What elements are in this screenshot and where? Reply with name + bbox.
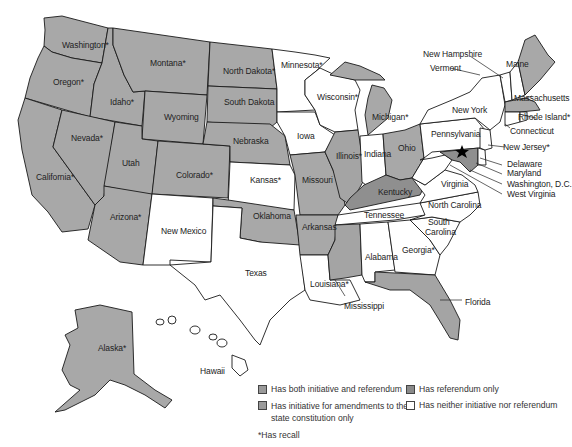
label-pennsylvania: Pennsylvania — [431, 130, 480, 139]
label-new-mexico: New Mexico — [161, 227, 206, 236]
legend-swatch-referendum-only — [406, 385, 415, 394]
label-florida: Florida — [465, 298, 490, 307]
label-indiana: Indiana — [364, 150, 391, 159]
state-alaska — [55, 305, 172, 412]
label-new-jersey: New Jersey* — [503, 143, 550, 152]
label-colorado: Colorado* — [176, 171, 213, 180]
label-illinois: Illinois* — [336, 152, 362, 161]
legend-note-text: *Has recall — [258, 430, 300, 440]
label-michigan: Michigan* — [372, 113, 408, 122]
legend-item-amendments-only: Has initiative for amendments to the sta… — [258, 400, 408, 424]
label-arkansas: Arkansas — [302, 223, 337, 232]
label-idaho: Idaho* — [110, 98, 134, 107]
label-north-carolina: North Carolina — [428, 201, 481, 210]
label-north-dakota: North Dakota* — [223, 67, 275, 76]
label-oklahoma: Oklahoma — [253, 212, 291, 221]
label-oregon: Oregon* — [53, 78, 84, 87]
label-south-dakota: South Dakota — [224, 98, 274, 107]
legend-label-amendments-line2: state constitution only — [271, 413, 354, 423]
label-utah: Utah — [122, 159, 140, 168]
legend-label-amendments-line1: Has initiative for amendments to the — [271, 401, 408, 411]
legend-label-referendum-only: Has referendum only — [419, 384, 499, 394]
label-ohio: Ohio — [398, 144, 416, 153]
label-texas: Texas — [245, 269, 267, 278]
label-new-hampshire: New Hampshire — [423, 50, 482, 59]
legend-label-both: Has both initiative and referendum — [271, 384, 402, 394]
state-new-jersey — [480, 128, 492, 150]
label-kentucky: Kentucky — [378, 188, 412, 197]
legend-note-recall: *Has recall — [258, 430, 300, 440]
label-tennessee: Tennessee — [364, 211, 404, 220]
label-delaware: Delaware — [507, 160, 542, 169]
legend-item-neither: Has neither initiative nor referendum — [406, 400, 558, 410]
legend-swatch-amendments-only — [258, 401, 267, 410]
label-missouri: Missouri — [302, 176, 333, 185]
label-kansas: Kansas* — [250, 176, 281, 185]
label-montana: Montana* — [150, 59, 186, 68]
label-wisconsin: Wisconsin* — [317, 93, 358, 102]
label-nevada: Nevada* — [71, 134, 103, 143]
label-california: California* — [36, 173, 74, 182]
state-south-dakota — [207, 86, 277, 128]
label-georgia: Georgia* — [402, 246, 435, 255]
label-nebraska: Nebraska — [233, 137, 269, 146]
label-alabama: Alabama — [365, 253, 398, 262]
label-iowa: Iowa — [297, 132, 315, 141]
label-wyoming: Wyoming — [164, 113, 199, 122]
legend-item-referendum-only: Has referendum only — [406, 384, 499, 394]
label-hawaii: Hawaii — [200, 367, 225, 376]
label-connecticut: Connecticut — [510, 127, 554, 136]
state-delaware — [478, 148, 486, 165]
label-alaska: Alaska* — [98, 344, 126, 353]
label-south-carolina-2: Carolina — [425, 228, 456, 237]
label-new-york: New York — [452, 106, 487, 115]
label-washington: Washington* — [62, 41, 109, 50]
label-vermont: Vermont — [430, 64, 461, 73]
label-arizona: Arizona* — [110, 213, 141, 222]
label-massachusetts: Massachusetts — [514, 94, 569, 103]
label-maine: Maine — [506, 60, 529, 69]
state-michigan-lower — [365, 85, 392, 135]
legend-label-neither: Has neither initiative nor referendum — [419, 400, 558, 410]
label-mississippi: Mississippi — [344, 302, 384, 311]
legend-label-amendments-only: Has initiative for amendments to the sta… — [271, 400, 408, 424]
legend-swatch-neither — [406, 401, 415, 410]
legend-swatch-both — [258, 385, 267, 394]
label-louisiana: Louisiana* — [310, 280, 349, 289]
label-washington-dc: Washington, D.C. — [507, 180, 572, 189]
legend-item-both: Has both initiative and referendum — [258, 384, 402, 394]
label-minnesota: Minnesota* — [281, 61, 323, 70]
label-south-carolina-1: South — [428, 218, 450, 227]
label-west-virginia: West Virginia — [507, 190, 555, 199]
label-maryland: Maryland — [507, 169, 541, 178]
label-rhode-island: Rhode Island* — [518, 113, 570, 122]
label-virginia: Virginia — [441, 180, 468, 189]
